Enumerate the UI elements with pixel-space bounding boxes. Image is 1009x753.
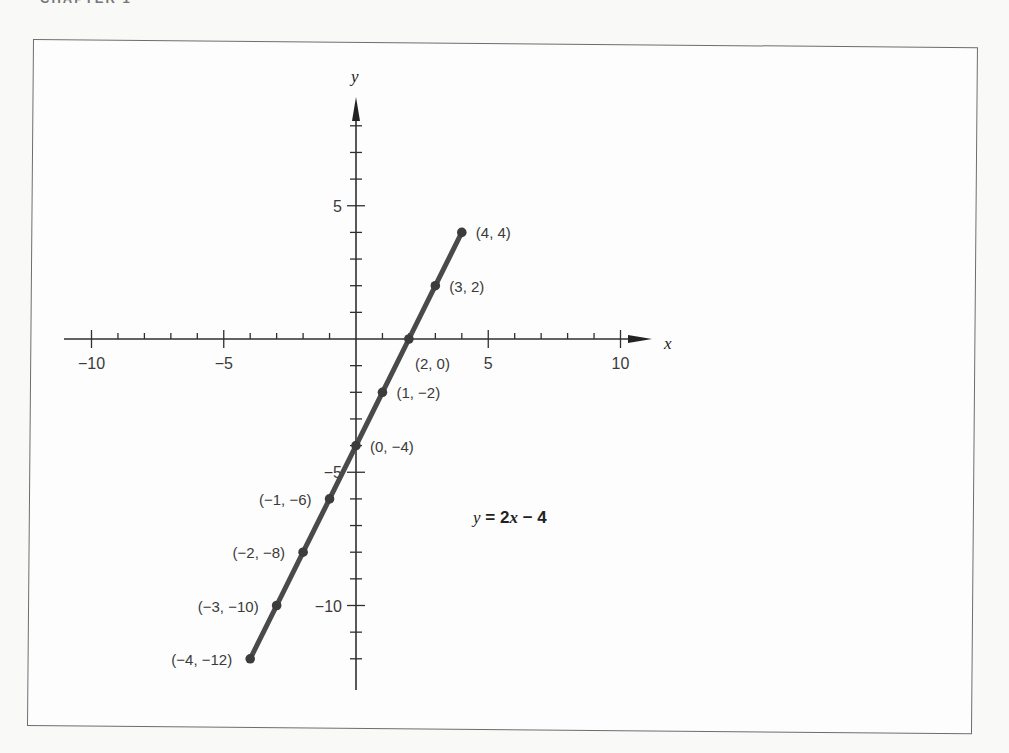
data-point xyxy=(351,441,361,451)
point-label: (−3, −10) xyxy=(198,598,259,615)
data-point xyxy=(272,601,282,611)
equation-equals: = xyxy=(485,508,495,527)
axes xyxy=(64,97,652,690)
axis-ticks xyxy=(92,126,621,659)
chart-plot: −10−55105−5−10 (4, 4)(3, 2)(2, 0)(1, −2)… xyxy=(0,0,1009,753)
x-axis-arrow-icon xyxy=(628,335,652,343)
point-label: (−1, −6) xyxy=(259,491,312,508)
x-tick-label: 5 xyxy=(484,355,493,372)
equation-const: 4 xyxy=(537,508,546,527)
x-axis-label: x xyxy=(663,334,672,353)
data-point xyxy=(298,547,308,557)
point-label: (−2, −8) xyxy=(233,544,286,561)
data-point xyxy=(325,494,335,504)
x-tick-label: 10 xyxy=(612,355,630,372)
equation-var: x xyxy=(509,508,518,527)
x-tick-label: −5 xyxy=(215,355,233,372)
data-point xyxy=(457,228,467,238)
point-label: (−4, −12) xyxy=(171,651,232,668)
point-label: (4, 4) xyxy=(476,224,511,241)
point-label: (3, 2) xyxy=(449,278,484,295)
point-label: (1, −2) xyxy=(396,384,440,401)
y-axis-arrow-icon xyxy=(352,97,360,121)
data-point xyxy=(404,334,414,344)
y-tick-label: −10 xyxy=(315,598,342,615)
equation-coef: 2 xyxy=(500,508,509,527)
x-tick-label: −10 xyxy=(78,355,105,372)
data-point xyxy=(378,388,388,398)
data-point xyxy=(431,281,441,291)
y-axis-label: y xyxy=(349,67,359,86)
y-tick-label: 5 xyxy=(333,198,342,215)
equation-label: y = 2x − 4 xyxy=(473,508,547,528)
point-label: (0, −4) xyxy=(370,438,414,455)
point-label: (2, 0) xyxy=(415,355,450,372)
equation-lhs: y xyxy=(473,508,481,527)
data-point xyxy=(245,654,255,664)
equation-op: − xyxy=(523,508,533,527)
